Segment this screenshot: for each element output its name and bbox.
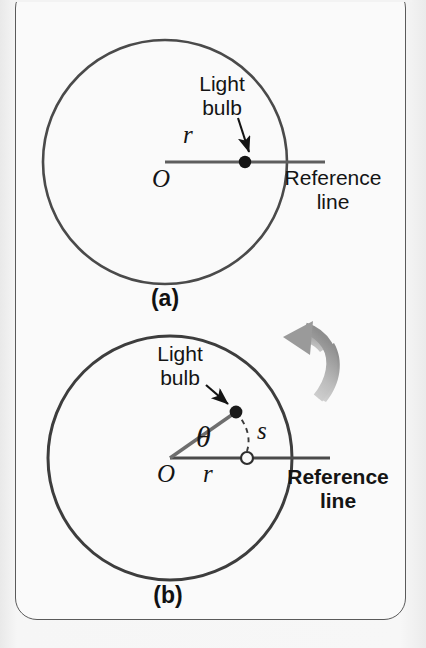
panel-caption-a: (a): [151, 286, 179, 310]
reference-line-label-b-line2: line: [287, 489, 389, 513]
panel-caption-b: (b): [153, 583, 182, 607]
light-bulb-dot-a: [239, 156, 251, 168]
reference-line-label-a-line1: Reference: [285, 166, 382, 190]
arc-endpoint-marker-b: [241, 452, 253, 464]
angle-label-b: θ: [196, 421, 211, 453]
radius-label-b: r: [203, 461, 213, 487]
light-bulb-label-b: Light bulb: [157, 342, 203, 389]
light-bulb-label-a: Light bulb: [199, 72, 245, 119]
light-bulb-label-a-line1: Light: [199, 72, 245, 96]
origin-label-b: O: [157, 461, 175, 487]
bulb-pointer-arrow-b: [206, 385, 228, 404]
reference-line-label-b-line1: Reference: [287, 465, 389, 489]
radius-label-a: r: [183, 122, 193, 148]
light-bulb-label-a-line2: bulb: [199, 96, 245, 120]
bulb-pointer-arrow-a: [238, 118, 249, 152]
light-bulb-label-b-line1: Light: [157, 342, 203, 366]
origin-label-a: O: [152, 166, 170, 192]
rotation-arrow-icon: [283, 321, 340, 402]
light-bulb-label-b-line2: bulb: [157, 366, 203, 390]
reference-line-label-a-line2: line: [285, 190, 382, 214]
light-bulb-dot-b: [230, 406, 243, 419]
reference-line-label-b: Reference line: [287, 465, 389, 512]
arc-length-label-b: s: [257, 418, 267, 444]
figure-page: Light bulb r O Reference line (a) Light …: [0, 0, 426, 648]
panel-a-artwork: [43, 40, 325, 284]
reference-line-label-a: Reference line: [285, 166, 382, 213]
